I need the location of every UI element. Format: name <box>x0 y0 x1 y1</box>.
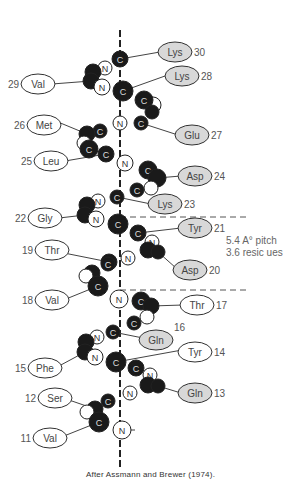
carbon-atom: C <box>108 214 128 234</box>
residue-name: Val <box>45 295 59 306</box>
carbon-atom: C <box>80 140 98 158</box>
nitrogen-atom: N <box>113 116 127 130</box>
svg-text:C: C <box>110 328 117 338</box>
svg-text:C: C <box>113 358 120 368</box>
residue-name: Tyr <box>188 347 203 358</box>
residue-lys-30: Lys30 <box>158 42 206 62</box>
pitch-text: 5.4 A° pitch <box>226 235 283 247</box>
figure-caption: After Assmann and Brewer (1974). <box>0 470 301 479</box>
residue-number: 27 <box>211 130 223 141</box>
carbon-atom: C <box>134 116 148 130</box>
carbon-atom: C <box>130 225 146 241</box>
svg-text:N: N <box>94 333 101 343</box>
nitrogen-atom: N <box>121 251 135 265</box>
carbon-atom: C <box>98 146 114 162</box>
residue-name: Lys <box>174 71 189 82</box>
svg-text:C: C <box>133 364 140 374</box>
residue-number: 15 <box>15 363 27 374</box>
residue-asp-20: Asp20 <box>173 260 221 280</box>
residue-name: Val <box>43 433 57 444</box>
svg-text:N: N <box>99 83 106 93</box>
svg-text:N: N <box>125 254 132 264</box>
residue-number: 11 <box>21 433 32 444</box>
residue-number: 20 <box>209 265 221 276</box>
svg-text:N: N <box>116 295 123 305</box>
carbon-atom: C <box>112 51 128 67</box>
pitch-annotation: 5.4 A° pitch 3.6 resic ues <box>226 235 283 259</box>
carbon-atom: C <box>127 316 141 330</box>
residue-name: Phe <box>36 363 54 374</box>
residue-val-18: Val18 <box>22 290 69 310</box>
residue-ser-12: Ser12 <box>25 388 72 408</box>
residue-thr-19: Thr19 <box>22 240 69 260</box>
nitrogen-atom: N <box>87 349 103 365</box>
residue-name: Glu <box>184 130 200 141</box>
carbon-atom: C <box>106 352 126 372</box>
residue-val-11: Val11 <box>21 428 67 448</box>
residue-phe-15: Phe15 <box>15 358 62 378</box>
residue-number: 29 <box>8 79 20 90</box>
carbon-atom: C <box>110 190 124 204</box>
residue-lys-28: Lys28 <box>165 66 213 86</box>
residue-name: Asp <box>181 265 199 276</box>
residue-labels: Lys30Lys28Val29Met26Glu27Leu25Asp24Lys23… <box>8 42 228 448</box>
residue-tyr-21: Tyr21 <box>178 218 226 238</box>
svg-text:C: C <box>120 87 127 97</box>
svg-text:C: C <box>115 220 122 230</box>
nitrogen-atom: N <box>123 386 137 400</box>
residue-lys-23: Lys23 <box>148 194 196 214</box>
residue-met-26: Met26 <box>14 115 61 135</box>
residue-name: Thr <box>45 245 61 256</box>
residue-name: Gly <box>38 213 53 224</box>
residue-number: 30 <box>194 47 206 58</box>
residue-number: 21 <box>214 223 226 234</box>
residue-name: Thr <box>190 300 206 311</box>
svg-text:C: C <box>134 186 141 196</box>
residue-gln-13: Gln13 <box>178 383 226 403</box>
residues-per-turn-text: 3.6 resic ues <box>226 247 283 259</box>
svg-text:C: C <box>96 418 103 428</box>
residue-name: Leu <box>43 156 60 167</box>
residue-number: 23 <box>184 199 196 210</box>
residue-name: Lys <box>167 47 182 58</box>
residue-name: Met <box>36 120 53 131</box>
svg-text:C: C <box>97 127 104 137</box>
svg-text:C: C <box>103 150 110 160</box>
residue-val-29: Val29 <box>8 74 55 94</box>
residue-name: Lys <box>157 199 172 210</box>
svg-text:N: N <box>95 197 102 207</box>
residue-number: 28 <box>201 71 213 82</box>
atom <box>151 379 165 393</box>
svg-text:N: N <box>93 215 100 225</box>
carbon-atom: C <box>128 360 144 376</box>
svg-text:N: N <box>127 389 134 399</box>
residue-name: Asp <box>186 171 204 182</box>
nitrogen-atom: N <box>117 155 133 171</box>
nitrogen-atom: N <box>94 79 110 95</box>
residue-number: 14 <box>214 347 226 358</box>
nitrogen-atom: N <box>113 421 131 439</box>
svg-text:C: C <box>86 145 93 155</box>
side-chain-bonds <box>52 52 183 436</box>
atom <box>144 181 158 195</box>
residue-number: 12 <box>25 393 37 404</box>
residue-number: 16 <box>174 322 186 333</box>
svg-text:N: N <box>119 426 126 436</box>
residue-number: 17 <box>216 300 228 311</box>
residue-glu-27: Glu27 <box>175 125 223 145</box>
residue-name: Tyr <box>188 223 203 234</box>
svg-text:C: C <box>138 119 145 129</box>
residue-number: 24 <box>214 171 226 182</box>
residue-name: Val <box>31 79 45 90</box>
svg-text:N: N <box>102 64 109 74</box>
nitrogen-atom: N <box>88 211 104 227</box>
residue-gly-22: Gly22 <box>15 208 62 228</box>
residue-tyr-14: Tyr14 <box>178 342 226 362</box>
carbon-atom: C <box>88 276 108 296</box>
svg-text:C: C <box>141 96 148 106</box>
residue-number: 18 <box>22 295 34 306</box>
residue-leu-25: Leu25 <box>21 151 68 171</box>
residue-number: 19 <box>22 245 34 256</box>
residue-number: 22 <box>15 213 27 224</box>
svg-text:C: C <box>95 282 102 292</box>
